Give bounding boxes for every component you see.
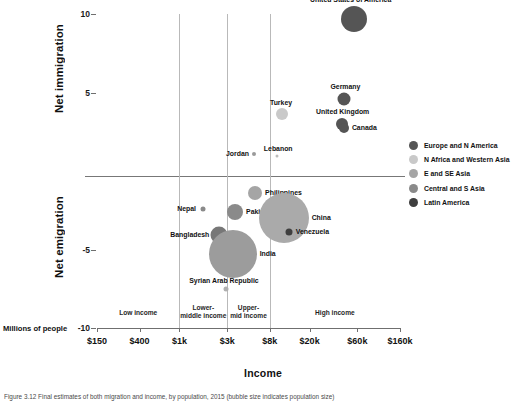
legend-item-4[interactable]: Latin America [409, 196, 510, 210]
y-axis-label-emigration: Net emigration [53, 196, 65, 278]
y-tick-label: 10 [81, 9, 90, 19]
y-tick-label: -5 [82, 245, 90, 255]
x-tick-label: $400 [130, 336, 150, 346]
x-axis-title: Income [0, 367, 526, 379]
x-tick-mark [400, 328, 401, 332]
y-axis-unit-note: Millions of people [3, 324, 67, 333]
bubble-canada[interactable] [339, 123, 349, 133]
bubble-chart-figure: Net immigration Net emigration Millions … [0, 0, 526, 402]
bubble-label: India [260, 250, 276, 257]
legend-item-label: Central and S Asia [424, 185, 485, 192]
x-tick-mark [270, 328, 271, 332]
bubble-label: Turkey [270, 99, 292, 106]
bubble-syrian-arab-republic[interactable] [223, 286, 228, 291]
x-tick-mark [179, 328, 180, 332]
legend-item-1[interactable]: N Africa and Western Asia [409, 152, 510, 166]
bubble-india[interactable] [209, 230, 257, 278]
bubble-philippines[interactable] [248, 186, 262, 200]
bubble-label: Nepal [177, 205, 196, 212]
legend-swatch-icon [409, 155, 418, 164]
gridline-vertical-0 [179, 14, 180, 328]
x-tick-label: $1k [172, 336, 187, 346]
bubble-venezuela[interactable] [286, 229, 293, 236]
income-band-label: Upper- mid income [230, 304, 267, 321]
legend-item-label: E and SE Asia [424, 170, 470, 177]
bubble-label: United Kingdom [316, 108, 369, 115]
legend-item-label: N Africa and Western Asia [424, 156, 510, 163]
income-band-label: Low income [119, 309, 157, 317]
x-tick-label: $20k [300, 336, 320, 346]
x-tick-mark [140, 328, 141, 332]
x-tick-mark [97, 328, 98, 332]
legend-swatch-icon [409, 198, 418, 207]
x-tick-label: $150 [87, 336, 107, 346]
bubble-united-states-of-america[interactable] [341, 6, 367, 32]
y-tick-label: -10 [78, 323, 90, 333]
x-tick-label: $8k [262, 336, 277, 346]
bubble-label: Canada [352, 124, 377, 131]
figure-caption: Figure 3.12 Final estimates of both migr… [4, 393, 522, 402]
income-band-label: High income [315, 309, 355, 317]
bubble-turkey[interactable] [276, 108, 288, 120]
income-band-label: Lower- middle income [180, 304, 226, 321]
y-axis-label-immigration: Net immigration [53, 24, 65, 113]
legend-item-0[interactable]: Europe and N America [409, 138, 510, 152]
legend-swatch-icon [409, 169, 418, 178]
legend: Europe and N AmericaN Africa and Western… [409, 138, 510, 210]
x-tick-mark [310, 328, 311, 332]
x-tick-label: $60k [347, 336, 367, 346]
legend-item-label: Europe and N America [424, 142, 498, 149]
x-axis-line [97, 328, 400, 329]
bubble-label: Syrian Arab Republic [189, 277, 258, 284]
gridline-vertical-2 [270, 14, 271, 328]
bubble-label: Bangladesh [170, 231, 209, 238]
bubble-jordan[interactable] [252, 152, 256, 156]
x-tick-mark [357, 328, 358, 332]
bubble-label: Germany [330, 83, 360, 90]
x-tick-mark [227, 328, 228, 332]
bubble-label: Lebanon [264, 145, 293, 152]
bubble-germany[interactable] [337, 92, 350, 105]
y-tick-mark [91, 93, 96, 94]
bubble-lebanon[interactable] [276, 155, 279, 158]
y-tick-label: 5 [85, 88, 90, 98]
legend-item-3[interactable]: Central and S Asia [409, 181, 510, 195]
bubble-label: China [312, 214, 331, 221]
bubble-china[interactable] [259, 193, 309, 243]
bubble-label: Venezuela [296, 228, 329, 235]
legend-swatch-icon [409, 141, 418, 150]
bubble-label: United States of America [310, 0, 391, 3]
y-tick-mark [91, 250, 96, 251]
x-tick-label: $3k [220, 336, 235, 346]
x-tick-label: $160k [387, 336, 412, 346]
legend-item-2[interactable]: E and SE Asia [409, 167, 510, 181]
y-tick-mark [91, 14, 96, 15]
bubble-pakistan[interactable] [227, 204, 243, 220]
bubble-label: Jordan [226, 150, 249, 157]
legend-swatch-icon [409, 184, 418, 193]
plot-area: 105-5-10$150$400$1k$3k$8k$20k$60k$160kLo… [97, 14, 400, 328]
zero-migration-line [85, 176, 405, 177]
y-tick-mark [91, 328, 96, 329]
legend-item-label: Latin America [424, 199, 469, 206]
bubble-nepal[interactable] [200, 206, 205, 211]
